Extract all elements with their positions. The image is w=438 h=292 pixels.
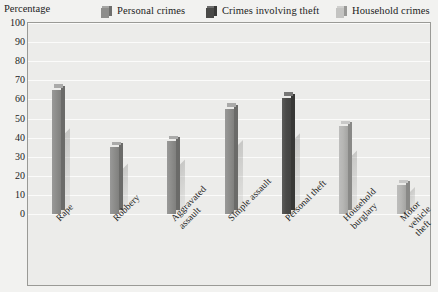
bar-front-face (339, 126, 348, 214)
y-axis-tick-label: 30 (3, 152, 25, 162)
bar-side-face (291, 94, 295, 211)
y-axis-tick-label: 80 (3, 56, 25, 66)
bar-top-face (54, 84, 63, 88)
bar-top-face (169, 136, 178, 140)
y-axis-tick-label: 40 (3, 133, 25, 143)
cube-icon (336, 5, 347, 18)
bar-side-face (119, 143, 123, 210)
bar-top-face (341, 121, 350, 125)
y-axis-tick-label: 60 (3, 94, 25, 104)
bar-top-face (399, 180, 408, 184)
bar-front-face (225, 109, 234, 214)
y-axis-tick-label: 90 (3, 37, 25, 47)
bar[interactable] (167, 137, 180, 214)
legend-label: Personal crimes (117, 6, 185, 17)
y-axis-tick-label: 20 (3, 171, 25, 181)
bar-front-face (110, 147, 119, 214)
legend-label: Household crimes (352, 6, 430, 17)
bar[interactable] (225, 105, 238, 214)
bar-side-face (348, 122, 352, 210)
legend-item-crimes-involving-theft[interactable]: Crimes involving theft (206, 3, 319, 19)
cube-icon (101, 5, 112, 18)
x-axis-labels: RapeRobberyAggravated assaultSimple assa… (28, 216, 430, 292)
bar-front-face (167, 141, 176, 214)
bar[interactable] (339, 122, 352, 214)
bar[interactable] (282, 94, 295, 215)
bar-side-face (234, 105, 238, 210)
cube-icon (206, 5, 217, 18)
bar-chart: Percentage Personal crimes Crimes involv… (0, 0, 438, 292)
bar-top-face (112, 142, 121, 146)
legend-label: Crimes involving theft (222, 6, 319, 17)
y-axis-tick-label: 50 (3, 114, 25, 124)
y-axis-tick-label: 0 (3, 209, 25, 219)
bar-side-face (61, 86, 65, 210)
bar[interactable] (52, 86, 65, 214)
bar-top-face (284, 92, 293, 96)
bar-top-face (227, 103, 236, 107)
chart-legend: Personal crimes Crimes involving theft H… (0, 0, 438, 22)
bar-front-face (282, 98, 291, 215)
bar-side-face (176, 137, 180, 210)
y-axis-tick-label: 10 (3, 190, 25, 200)
y-axis-ticks: 1009080706050403020100 (0, 23, 25, 214)
legend-item-household-crimes[interactable]: Household crimes (336, 3, 430, 19)
bar[interactable] (110, 143, 123, 214)
y-axis-tick-label: 70 (3, 75, 25, 85)
legend-item-personal-crimes[interactable]: Personal crimes (101, 3, 185, 19)
bar-front-face (52, 90, 61, 214)
y-axis-tick-label: 100 (3, 18, 25, 28)
